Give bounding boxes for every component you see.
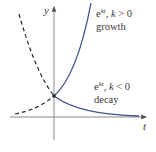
- y-axis-label: y: [44, 5, 49, 16]
- decay-annotation: ekt, k < 0 decay: [94, 81, 130, 105]
- t-axis-label: t: [143, 121, 146, 132]
- decay-curve-dashed: [19, 14, 54, 96]
- growth-curve-dashed: [15, 96, 54, 114]
- growth-curve: [54, 3, 91, 96]
- growth-formula: ekt, k > 0: [96, 8, 132, 20]
- exponential-diagram: [0, 0, 156, 152]
- growth-label: growth: [96, 22, 132, 33]
- intersection-point: [52, 94, 56, 98]
- growth-annotation: ekt, k > 0 growth: [96, 8, 132, 32]
- decay-formula: ekt, k < 0: [94, 81, 130, 93]
- decay-label: decay: [94, 95, 130, 106]
